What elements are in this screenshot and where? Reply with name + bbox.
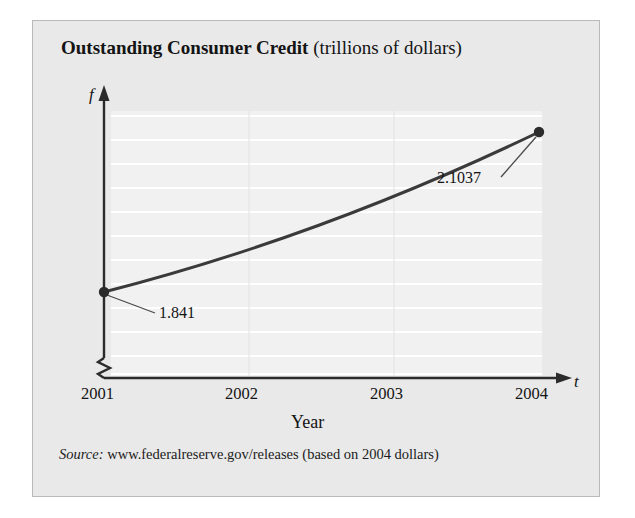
data-label-2004: 2.1037 [437,169,481,187]
y-axis-symbol-label: f [89,85,94,105]
y-axis-arrowhead [99,85,110,101]
figure-panel: Outstanding Consumer Credit (trillions o… [32,20,600,497]
x-tick-label-2001: 2001 [81,384,114,404]
data-point-2004[interactable] [534,127,544,137]
x-tick-label-2004: 2004 [515,384,548,404]
x-axis-arrowhead [556,373,572,384]
source-note: Source: www.federalreserve.gov/releases … [59,446,439,463]
source-note-text: www.federalreserve.gov/releases (based o… [107,446,439,462]
plot-area-background [111,111,542,376]
x-axis-symbol-label: t [574,372,579,392]
data-label-2001: 1.841 [159,304,195,322]
source-note-label: Source: [59,446,104,462]
x-axis-title: Year [291,412,324,433]
x-tick-label-2002: 2002 [225,384,258,404]
x-tick-label-2003: 2003 [370,384,403,404]
y-axis-break-zigzag [98,358,110,378]
data-point-2001[interactable] [99,287,109,297]
